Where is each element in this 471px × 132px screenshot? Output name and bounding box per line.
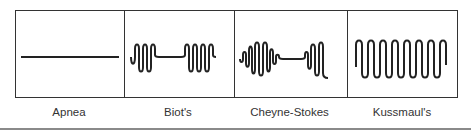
bottom-rule bbox=[0, 128, 471, 130]
label-kussmauls: Kussmaul's bbox=[346, 106, 458, 118]
apnea-waveform bbox=[16, 11, 124, 97]
panel-biots bbox=[124, 11, 234, 97]
label-apnea: Apnea bbox=[15, 106, 123, 118]
label-cheyne-stokes: Cheyne-Stokes bbox=[233, 106, 346, 118]
kussmauls-waveform bbox=[348, 11, 458, 97]
breathing-patterns-frame bbox=[15, 10, 458, 98]
label-biots: Biot's bbox=[123, 106, 233, 118]
biots-waveform bbox=[125, 11, 235, 97]
panel-kussmauls bbox=[347, 11, 457, 97]
panel-apnea bbox=[16, 11, 124, 97]
cheyne-stokes-waveform bbox=[235, 11, 348, 97]
panel-cheyne-stokes bbox=[234, 11, 347, 97]
